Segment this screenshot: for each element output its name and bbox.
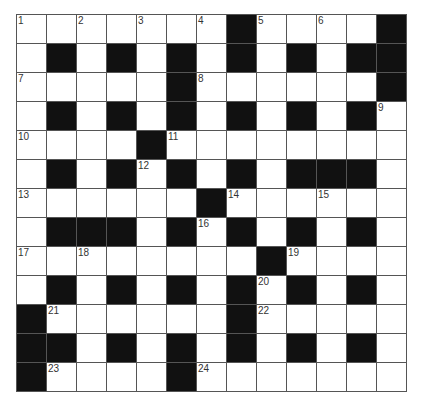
crossword-cell[interactable]	[257, 131, 286, 159]
crossword-cell[interactable]	[257, 334, 286, 362]
crossword-cell[interactable]: 1	[17, 15, 46, 43]
crossword-cell[interactable]	[167, 247, 196, 275]
crossword-cell[interactable]	[257, 102, 286, 130]
crossword-cell[interactable]	[77, 131, 106, 159]
crossword-cell[interactable]	[77, 276, 106, 304]
crossword-cell[interactable]	[347, 305, 376, 333]
crossword-cell[interactable]: 14	[227, 189, 256, 217]
crossword-cell[interactable]	[47, 247, 76, 275]
crossword-cell[interactable]	[377, 305, 406, 333]
crossword-cell[interactable]: 21	[47, 305, 76, 333]
crossword-cell[interactable]: 22	[257, 305, 286, 333]
crossword-cell[interactable]	[17, 160, 46, 188]
crossword-cell[interactable]	[47, 73, 76, 101]
crossword-cell[interactable]	[107, 363, 136, 391]
crossword-cell[interactable]: 8	[197, 73, 226, 101]
crossword-cell[interactable]: 12	[137, 160, 166, 188]
crossword-cell[interactable]	[287, 363, 316, 391]
crossword-cell[interactable]	[347, 247, 376, 275]
crossword-cell[interactable]	[197, 131, 226, 159]
crossword-cell[interactable]: 24	[197, 363, 226, 391]
crossword-cell[interactable]	[227, 247, 256, 275]
crossword-cell[interactable]	[377, 218, 406, 246]
crossword-cell[interactable]	[317, 363, 346, 391]
crossword-cell[interactable]	[377, 131, 406, 159]
crossword-cell[interactable]	[77, 160, 106, 188]
crossword-cell[interactable]	[257, 363, 286, 391]
crossword-cell[interactable]	[347, 73, 376, 101]
crossword-cell[interactable]	[77, 73, 106, 101]
crossword-cell[interactable]	[227, 363, 256, 391]
crossword-cell[interactable]	[377, 160, 406, 188]
crossword-cell[interactable]	[197, 276, 226, 304]
crossword-cell[interactable]: 6	[317, 15, 346, 43]
crossword-cell[interactable]	[77, 189, 106, 217]
crossword-cell[interactable]	[317, 218, 346, 246]
crossword-cell[interactable]	[137, 44, 166, 72]
crossword-cell[interactable]	[107, 305, 136, 333]
crossword-cell[interactable]	[347, 189, 376, 217]
crossword-cell[interactable]	[347, 131, 376, 159]
crossword-cell[interactable]	[17, 276, 46, 304]
crossword-cell[interactable]	[257, 160, 286, 188]
crossword-cell[interactable]: 7	[17, 73, 46, 101]
crossword-cell[interactable]	[317, 334, 346, 362]
crossword-cell[interactable]	[137, 189, 166, 217]
crossword-cell[interactable]	[107, 15, 136, 43]
crossword-cell[interactable]	[257, 44, 286, 72]
crossword-cell[interactable]	[377, 334, 406, 362]
crossword-cell[interactable]	[377, 276, 406, 304]
crossword-cell[interactable]	[17, 218, 46, 246]
crossword-cell[interactable]	[287, 305, 316, 333]
crossword-cell[interactable]	[167, 305, 196, 333]
crossword-cell[interactable]	[137, 334, 166, 362]
crossword-cell[interactable]	[107, 131, 136, 159]
crossword-cell[interactable]	[107, 73, 136, 101]
crossword-cell[interactable]	[137, 276, 166, 304]
crossword-cell[interactable]	[107, 189, 136, 217]
crossword-cell[interactable]	[47, 189, 76, 217]
crossword-cell[interactable]	[47, 15, 76, 43]
crossword-cell[interactable]	[197, 160, 226, 188]
crossword-cell[interactable]	[317, 102, 346, 130]
crossword-cell[interactable]: 10	[17, 131, 46, 159]
crossword-cell[interactable]	[137, 363, 166, 391]
crossword-cell[interactable]: 19	[287, 247, 316, 275]
crossword-cell[interactable]	[317, 276, 346, 304]
crossword-cell[interactable]	[197, 102, 226, 130]
crossword-cell[interactable]: 3	[137, 15, 166, 43]
crossword-cell[interactable]	[197, 247, 226, 275]
crossword-cell[interactable]	[317, 247, 346, 275]
crossword-cell[interactable]	[317, 131, 346, 159]
crossword-cell[interactable]: 4	[197, 15, 226, 43]
crossword-cell[interactable]: 13	[17, 189, 46, 217]
crossword-cell[interactable]	[347, 15, 376, 43]
crossword-cell[interactable]	[257, 73, 286, 101]
crossword-cell[interactable]	[107, 247, 136, 275]
crossword-cell[interactable]	[167, 15, 196, 43]
crossword-cell[interactable]: 5	[257, 15, 286, 43]
crossword-cell[interactable]	[317, 73, 346, 101]
crossword-cell[interactable]	[197, 334, 226, 362]
crossword-cell[interactable]	[287, 15, 316, 43]
crossword-cell[interactable]: 15	[317, 189, 346, 217]
crossword-cell[interactable]	[167, 189, 196, 217]
crossword-cell[interactable]	[317, 44, 346, 72]
crossword-cell[interactable]	[137, 73, 166, 101]
crossword-cell[interactable]	[197, 305, 226, 333]
crossword-cell[interactable]	[77, 334, 106, 362]
crossword-cell[interactable]	[77, 102, 106, 130]
crossword-cell[interactable]	[137, 305, 166, 333]
crossword-cell[interactable]: 17	[17, 247, 46, 275]
crossword-cell[interactable]: 2	[77, 15, 106, 43]
crossword-cell[interactable]: 18	[77, 247, 106, 275]
crossword-cell[interactable]: 16	[197, 218, 226, 246]
crossword-cell[interactable]	[257, 218, 286, 246]
crossword-cell[interactable]	[287, 189, 316, 217]
crossword-cell[interactable]	[317, 305, 346, 333]
crossword-cell[interactable]	[77, 305, 106, 333]
crossword-cell[interactable]	[377, 189, 406, 217]
crossword-cell[interactable]: 23	[47, 363, 76, 391]
crossword-cell[interactable]	[137, 218, 166, 246]
crossword-cell[interactable]	[377, 247, 406, 275]
